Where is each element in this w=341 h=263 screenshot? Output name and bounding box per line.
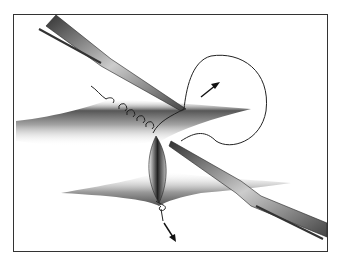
suture-loop bbox=[181, 55, 267, 145]
arrow-up-right-icon bbox=[201, 82, 220, 97]
illustration-frame bbox=[13, 14, 328, 252]
forceps-upper bbox=[39, 15, 186, 111]
suture-illustration bbox=[14, 15, 327, 251]
arrow-down-icon bbox=[164, 223, 176, 242]
tissue-upper bbox=[16, 99, 251, 146]
